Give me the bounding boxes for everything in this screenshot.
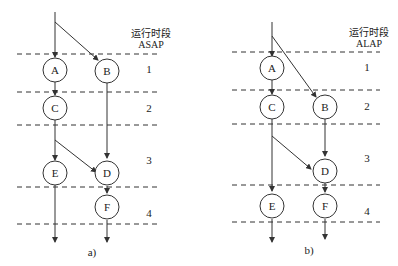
svg-text:A: A — [51, 64, 59, 76]
step-dividers — [17, 54, 158, 224]
node-D: D — [95, 161, 119, 185]
svg-text:E: E — [52, 167, 59, 179]
svg-text:D: D — [321, 165, 329, 177]
step-dividers — [232, 52, 380, 222]
panel-b-alap: A C B D E F 运行时段 ALAP 1 2 3 4 b) — [232, 22, 389, 257]
node-F: F — [313, 194, 337, 218]
svg-text:B: B — [321, 101, 328, 113]
header-line1: 运行时段 — [349, 26, 389, 38]
step-2: 2 — [146, 102, 152, 114]
node-B: B — [95, 59, 119, 83]
svg-text:C: C — [268, 101, 275, 113]
caption-a: a) — [88, 246, 97, 259]
step-4: 4 — [146, 207, 152, 219]
header-line1: 运行时段 — [131, 27, 171, 39]
svg-text:C: C — [51, 102, 58, 114]
svg-text:E: E — [269, 200, 276, 212]
step-3: 3 — [364, 152, 370, 164]
svg-text:D: D — [103, 167, 111, 179]
scheduling-diagram: A B C E D F 运行时段 ASAP 1 2 3 4 a) — [0, 0, 398, 266]
svg-text:F: F — [104, 201, 110, 213]
node-B: B — [313, 95, 337, 119]
panel-a-asap: A B C E D F 运行时段 ASAP 1 2 3 4 a) — [17, 12, 171, 259]
svg-text:A: A — [268, 62, 276, 74]
step-1: 1 — [364, 61, 370, 73]
svg-text:F: F — [322, 200, 328, 212]
step-2: 2 — [364, 100, 370, 112]
step-3: 3 — [146, 154, 152, 166]
caption-b: b) — [304, 244, 314, 257]
step-1: 1 — [146, 63, 152, 75]
node-E: E — [260, 194, 284, 218]
node-E: E — [43, 161, 67, 185]
header-line2: ALAP — [356, 38, 383, 49]
node-D: D — [313, 159, 337, 183]
node-A: A — [260, 56, 284, 80]
node-F: F — [95, 195, 119, 219]
node-C: C — [260, 95, 284, 119]
svg-text:B: B — [103, 65, 110, 77]
step-4: 4 — [364, 205, 370, 217]
node-A: A — [43, 58, 67, 82]
node-C: C — [43, 96, 67, 120]
header-line2: ASAP — [138, 39, 164, 50]
